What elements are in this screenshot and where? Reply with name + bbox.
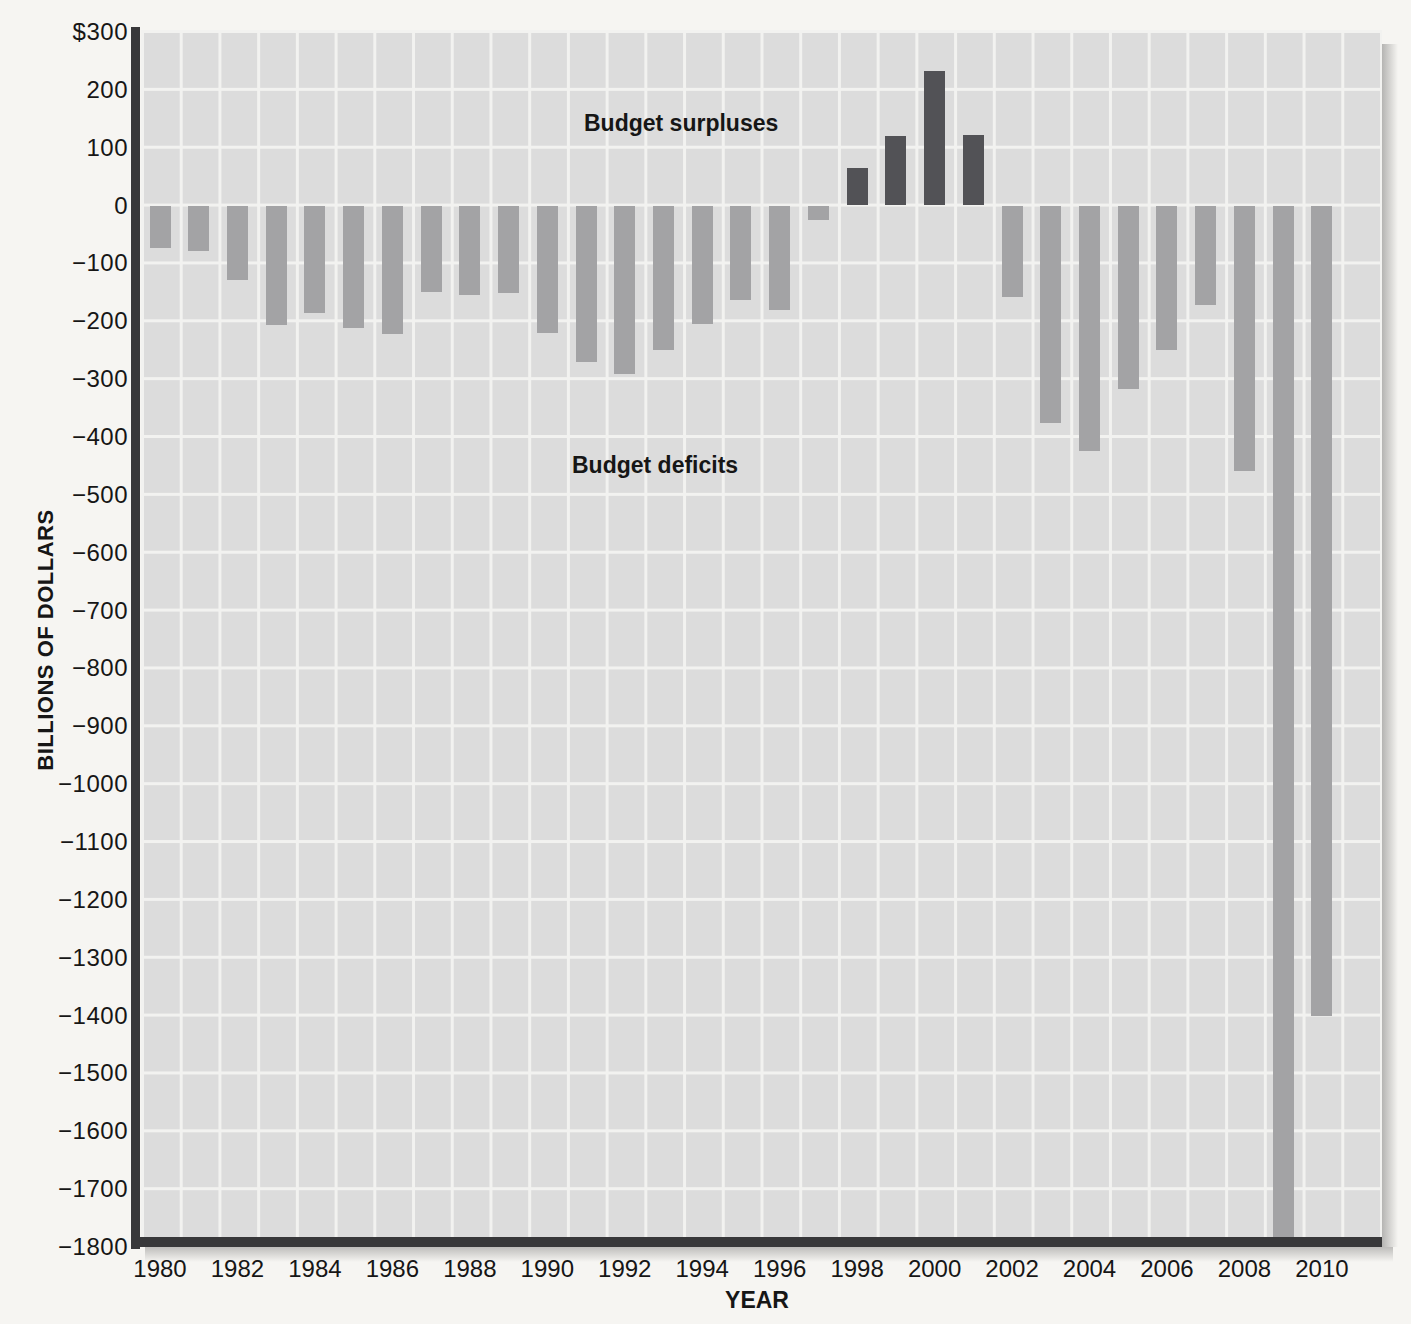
- bar-2006: [1156, 206, 1177, 350]
- bar-2001: [963, 135, 984, 206]
- bar-1981: [188, 206, 209, 252]
- y-tick-label: 200: [16, 76, 128, 104]
- bar-1991: [576, 206, 597, 362]
- bar-2005: [1118, 206, 1139, 390]
- bar-1995: [730, 206, 751, 301]
- bar-1982: [227, 206, 248, 280]
- bar-2000: [924, 71, 945, 205]
- y-tick-label: −800: [16, 654, 128, 682]
- y-tick-label: 100: [16, 134, 128, 162]
- y-tick-label: −1100: [16, 828, 128, 856]
- bar-1986: [382, 206, 403, 334]
- deficit-annotation: Budget deficits: [572, 452, 738, 479]
- y-tick-label: −1600: [16, 1117, 128, 1145]
- bar-2004: [1079, 206, 1100, 451]
- y-tick-label: −300: [16, 365, 128, 393]
- bar-1999: [885, 136, 906, 205]
- bar-2010: [1311, 206, 1332, 1016]
- bar-1996: [769, 206, 790, 310]
- bar-1984: [304, 206, 325, 313]
- bar-1988: [459, 206, 480, 296]
- y-tick-label: 0: [16, 192, 128, 220]
- bar-1993: [653, 206, 674, 351]
- bar-1998: [847, 168, 868, 206]
- x-axis-line: [131, 1237, 1382, 1247]
- y-tick-label: −1700: [16, 1175, 128, 1203]
- y-tick-label: −1500: [16, 1059, 128, 1087]
- bar-1987: [421, 206, 442, 293]
- budget-deficit-surplus-chart: BILLIONS OF DOLLARS $3002001000−100−200−…: [0, 0, 1411, 1324]
- x-tick-label: 2010: [1274, 1256, 1370, 1282]
- bar-2008: [1234, 206, 1255, 472]
- y-tick-label: −400: [16, 423, 128, 451]
- bar-2009: [1273, 206, 1294, 1248]
- y-tick-label: −1400: [16, 1002, 128, 1030]
- bar-1992: [614, 206, 635, 375]
- y-tick-label: −200: [16, 307, 128, 335]
- y-tick-label: −1000: [16, 770, 128, 798]
- bar-1997: [808, 206, 829, 220]
- y-tick-label: −1300: [16, 944, 128, 972]
- bar-1990: [537, 206, 558, 334]
- plot-area: [141, 30, 1382, 1247]
- bar-1989: [498, 206, 519, 294]
- bar-1985: [343, 206, 364, 329]
- surplus-annotation: Budget surpluses: [584, 110, 778, 137]
- y-tick-label: −500: [16, 481, 128, 509]
- y-tick-label: −1200: [16, 886, 128, 914]
- bar-2007: [1195, 206, 1216, 306]
- bar-1983: [266, 206, 287, 326]
- bar-1994: [692, 206, 713, 324]
- bar-2002: [1002, 206, 1023, 297]
- y-tick-label: −700: [16, 597, 128, 625]
- bar-1980: [150, 206, 171, 249]
- x-axis-title: YEAR: [707, 1287, 807, 1314]
- y-tick-label: $300: [16, 18, 128, 46]
- y-tick-label: −900: [16, 712, 128, 740]
- bar-2003: [1040, 206, 1061, 424]
- y-tick-label: −600: [16, 539, 128, 567]
- plot-right-shadow: [1382, 44, 1398, 1247]
- y-tick-label: −100: [16, 249, 128, 277]
- y-axis-line: [131, 27, 140, 1249]
